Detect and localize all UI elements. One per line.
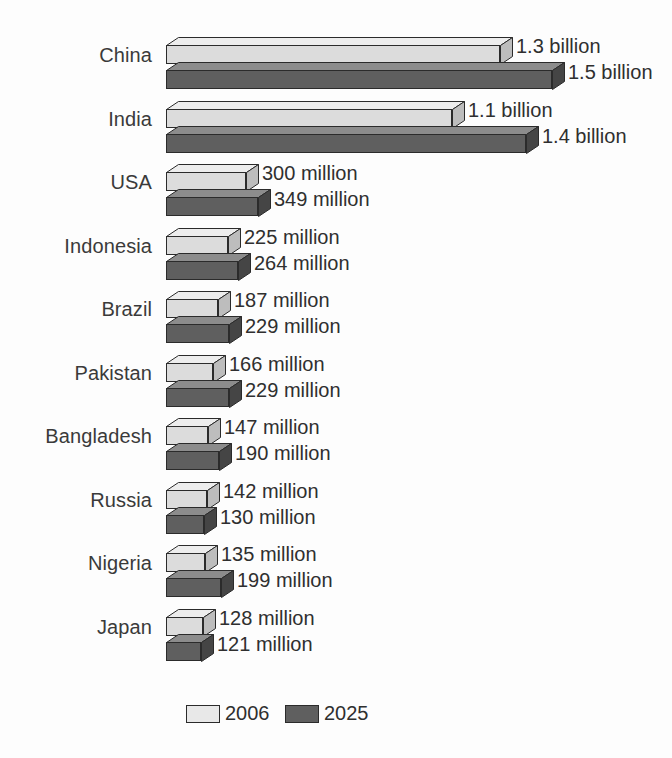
value-label-2025: 199 million: [237, 570, 333, 590]
value-label-2025: 229 million: [245, 380, 341, 400]
bar-top-face: [166, 189, 272, 217]
bar-dark: [166, 126, 538, 145]
bar-dark: [166, 62, 564, 81]
bar-light: [166, 609, 215, 628]
legend-item-2006[interactable]: 2006: [186, 702, 270, 725]
bar-dark: [166, 570, 233, 589]
bar-light: [166, 355, 225, 374]
chart-row: Brazil187 million229 million: [0, 284, 672, 347]
bar-side-face: [552, 62, 566, 92]
chart-row: Indonesia225 million264 million: [0, 221, 672, 284]
value-label-2006: 128 million: [219, 608, 315, 628]
category-label: India: [0, 108, 152, 131]
category-label: Brazil: [0, 298, 152, 321]
value-label-2025: 1.5 billion: [568, 62, 653, 82]
bar-side-face: [229, 316, 243, 346]
legend-label-2025: 2025: [324, 702, 369, 725]
value-label-2006: 135 million: [221, 544, 317, 564]
bar-light: [166, 101, 464, 120]
bar-light: [166, 482, 219, 501]
value-label-2006: 300 million: [262, 163, 358, 183]
value-label-2025: 349 million: [274, 189, 370, 209]
bar-dark: [166, 253, 250, 272]
category-label: Nigeria: [0, 552, 152, 575]
chart-row: Japan128 million121 million: [0, 602, 672, 665]
bar-top-face: [166, 62, 566, 90]
bar-top-face: [166, 37, 514, 65]
population-bar-chart: China1.3 billion1.5 billionIndia1.1 bill…: [0, 0, 672, 758]
legend-swatch-dark-icon: [285, 705, 319, 723]
bar-light: [166, 418, 220, 437]
legend-item-2025[interactable]: 2025: [285, 702, 369, 725]
bar-dark: [166, 316, 241, 335]
bar-top-face: [166, 126, 540, 154]
chart-row: India1.1 billion1.4 billion: [0, 94, 672, 157]
value-label-2025: 121 million: [217, 634, 313, 654]
chart-row: USA300 million349 million: [0, 157, 672, 220]
bar-side-face: [258, 189, 272, 219]
category-label: Pakistan: [0, 362, 152, 385]
bar-side-face: [526, 126, 540, 156]
bar-top-face: [166, 101, 466, 129]
bar-side-face: [238, 253, 252, 283]
value-label-2006: 147 million: [224, 417, 320, 437]
bar-dark: [166, 443, 231, 462]
legend-swatch-light-icon: [186, 705, 220, 723]
value-label-2006: 225 million: [244, 227, 340, 247]
chart-row: China1.3 billion1.5 billion: [0, 30, 672, 93]
value-label-2025: 229 million: [245, 316, 341, 336]
value-label-2025: 1.4 billion: [542, 126, 627, 146]
bar-side-face: [219, 443, 233, 473]
category-label: China: [0, 44, 152, 67]
chart-row: Russia142 million130 million: [0, 475, 672, 538]
chart-row: Pakistan166 million229 million: [0, 348, 672, 411]
chart-legend: 2006 2025: [0, 702, 672, 736]
bar-light: [166, 291, 230, 310]
bar-dark: [166, 189, 270, 208]
chart-row: Bangladesh147 million190 million: [0, 411, 672, 474]
value-label-2006: 1.3 billion: [516, 36, 601, 56]
value-label-2025: 130 million: [220, 507, 316, 527]
category-label: USA: [0, 171, 152, 194]
bar-dark: [166, 634, 213, 653]
value-label-2006: 142 million: [223, 481, 319, 501]
category-label: Russia: [0, 489, 152, 512]
value-label-2006: 187 million: [234, 290, 330, 310]
bar-dark: [166, 380, 241, 399]
bar-light: [166, 545, 217, 564]
bar-light: [166, 164, 258, 183]
chart-row: Nigeria135 million199 million: [0, 538, 672, 601]
bar-dark: [166, 507, 216, 526]
value-label-2025: 190 million: [235, 443, 331, 463]
legend-label-2006: 2006: [225, 702, 270, 725]
category-label: Japan: [0, 616, 152, 639]
value-label-2025: 264 million: [254, 253, 350, 273]
bar-side-face: [221, 570, 235, 600]
bar-side-face: [204, 507, 218, 537]
category-label: Indonesia: [0, 235, 152, 258]
bar-side-face: [229, 380, 243, 410]
category-label: Bangladesh: [0, 425, 152, 448]
bar-side-face: [201, 634, 215, 664]
bar-light: [166, 37, 512, 56]
value-label-2006: 166 million: [229, 354, 325, 374]
bar-light: [166, 228, 240, 247]
value-label-2006: 1.1 billion: [468, 100, 553, 120]
